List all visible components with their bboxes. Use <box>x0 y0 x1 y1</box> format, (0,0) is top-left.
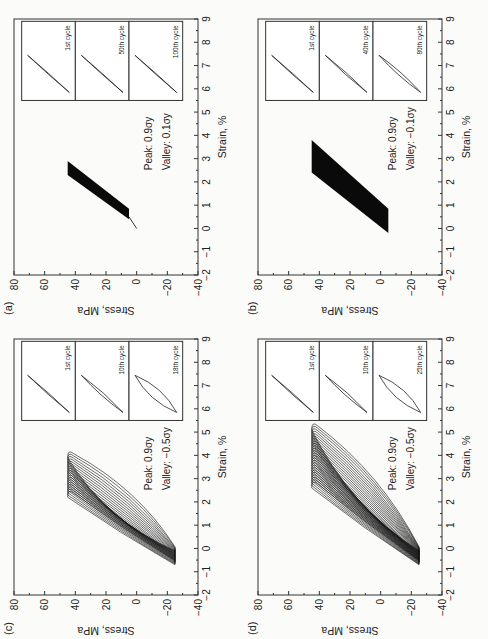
y-tick-label: −20 <box>162 279 173 296</box>
panel-d: −2−10123456789−40−20020406080Strain, %St… <box>244 320 488 639</box>
x-tick-label: −1 <box>445 566 456 578</box>
x-tick-label: 5 <box>201 429 212 435</box>
inset-2: 40th cycle <box>319 21 373 100</box>
x-tick-label: 3 <box>201 155 212 161</box>
x-tick-label: 4 <box>201 132 212 138</box>
x-tick-label: 1 <box>201 522 212 528</box>
y-tick-label: 40 <box>314 599 325 611</box>
x-tick-label: 2 <box>445 179 456 185</box>
peak-annotation: Peak: 0.9σy <box>143 117 154 170</box>
y-tick-label: 80 <box>253 599 264 611</box>
panel-a: −2−10123456789−40−20020406080Strain, %St… <box>0 0 244 319</box>
x-tick-label: −1 <box>445 246 456 258</box>
inset-2: 50th cycle <box>75 21 129 100</box>
x-tick-label: 0 <box>201 545 212 551</box>
panel-label: (b) <box>246 302 258 315</box>
y-tick-label: 60 <box>283 599 294 611</box>
x-tick-label: 4 <box>201 452 212 458</box>
x-tick-label: 9 <box>445 16 456 22</box>
peak-annotation: Peak: 0.9σy <box>387 117 398 170</box>
x-tick-label: 7 <box>445 62 456 68</box>
x-tick-label: 4 <box>445 452 456 458</box>
x-tick-label: 6 <box>445 406 456 412</box>
y-tick-label: 20 <box>101 599 112 611</box>
x-tick-label: 8 <box>445 359 456 365</box>
x-tick-label: 7 <box>201 382 212 388</box>
y-tick-label: 20 <box>345 279 356 291</box>
x-tick-label: 0 <box>201 225 212 231</box>
hysteresis-loops <box>312 424 419 565</box>
inset-1: 1st cycle <box>266 21 320 100</box>
valley-annotation: Valley: −0.1σy <box>405 107 416 170</box>
x-axis-title: Strain, % <box>216 116 228 159</box>
inset-label: 50th cycle <box>118 25 126 55</box>
x-tick-label: 6 <box>445 86 456 92</box>
inset-label: 1st cycle <box>308 345 316 371</box>
x-tick-label: 9 <box>201 16 212 22</box>
x-tick-label: 0 <box>445 545 456 551</box>
inset-2: 10th cycle <box>75 341 129 420</box>
inset-label: 100th cycle <box>172 25 180 58</box>
x-tick-label: 1 <box>445 522 456 528</box>
y-tick-label: −40 <box>193 279 204 296</box>
x-tick-label: 8 <box>445 39 456 45</box>
panel-label: (c) <box>2 622 14 635</box>
y-tick-label: 40 <box>70 279 81 291</box>
peak-annotation: Peak: 0.9σy <box>143 437 154 490</box>
x-axis-title: Strain, % <box>460 436 472 479</box>
y-tick-label: −20 <box>406 279 417 296</box>
y-tick-label: 40 <box>314 279 325 291</box>
x-tick-label: 6 <box>201 406 212 412</box>
y-tick-label: 80 <box>9 279 20 291</box>
hysteresis-loops <box>68 452 175 565</box>
x-tick-label: 9 <box>445 336 456 342</box>
y-tick-label: 60 <box>39 599 50 611</box>
x-tick-label: 9 <box>201 336 212 342</box>
inset-label: 10th cycle <box>362 345 370 375</box>
inset-label: 1st cycle <box>64 25 72 51</box>
hysteresis-loops <box>312 140 389 233</box>
panel-c: −2−10123456789−40−20020406080Strain, %St… <box>0 320 244 639</box>
y-tick-label: 20 <box>345 599 356 611</box>
x-tick-label: 7 <box>201 62 212 68</box>
inset-3: 18th cycle <box>129 341 183 420</box>
x-tick-label: 7 <box>445 382 456 388</box>
inset-1: 1st cycle <box>22 341 76 420</box>
inset-label: 25th cycle <box>416 345 424 375</box>
panel-label: (d) <box>246 622 258 635</box>
y-tick-label: 80 <box>9 599 20 611</box>
valley-annotation: Valley: −0.5σy <box>405 427 416 490</box>
y-tick-label: −40 <box>437 279 448 296</box>
y-tick-label: 0 <box>375 599 386 605</box>
peak-annotation: Peak: 0.9σy <box>387 437 398 490</box>
y-tick-label: 0 <box>131 599 142 605</box>
inset-3: 80th cycle <box>373 21 427 100</box>
hysteresis-loops <box>68 161 137 228</box>
x-tick-label: 1 <box>445 202 456 208</box>
x-tick-label: 5 <box>445 109 456 115</box>
x-tick-label: 0 <box>445 225 456 231</box>
inset-3: 25th cycle <box>373 341 427 420</box>
y-tick-label: 0 <box>131 279 142 285</box>
x-tick-label: 2 <box>445 499 456 505</box>
inset-label: 18th cycle <box>172 345 180 375</box>
x-axis-title: Strain, % <box>460 116 472 159</box>
valley-annotation: Valley: 0.1σy <box>161 113 172 170</box>
inset-2: 10th cycle <box>319 341 373 420</box>
x-axis-title: Strain, % <box>216 436 228 479</box>
x-tick-label: 8 <box>201 359 212 365</box>
x-tick-label: −1 <box>201 566 212 578</box>
y-tick-label: −40 <box>437 599 448 616</box>
inset-1: 1st cycle <box>22 21 76 100</box>
y-axis-title: Stress, MPa <box>321 305 378 317</box>
x-tick-label: 8 <box>201 39 212 45</box>
x-tick-label: 6 <box>201 86 212 92</box>
y-tick-label: 80 <box>253 279 264 291</box>
inset-1: 1st cycle <box>266 341 320 420</box>
x-tick-label: 3 <box>445 155 456 161</box>
x-tick-label: 2 <box>201 499 212 505</box>
y-tick-label: −20 <box>162 599 173 616</box>
x-tick-label: 5 <box>201 109 212 115</box>
x-tick-label: −1 <box>201 246 212 258</box>
y-tick-label: −40 <box>193 599 204 616</box>
